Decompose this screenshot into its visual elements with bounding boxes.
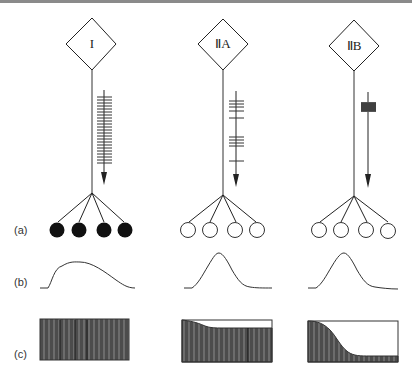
spike-train-IIA bbox=[229, 91, 244, 187]
muscle-fibers-IIB bbox=[312, 223, 396, 239]
motor-unit-figure bbox=[0, 0, 412, 378]
row-label-a: (a) bbox=[14, 224, 27, 236]
unit-I bbox=[40, 18, 135, 360]
unit-IIB bbox=[308, 20, 398, 362]
twitch-curve-I bbox=[40, 262, 135, 288]
spike-train-I bbox=[97, 90, 112, 185]
twitch-curve-IIA bbox=[184, 253, 272, 288]
unit-label-I: I bbox=[72, 36, 112, 52]
muscle-fibers-IIA bbox=[181, 223, 265, 238]
row-label-c: (c) bbox=[14, 348, 27, 360]
spike-train-IIB bbox=[361, 92, 376, 188]
axon-branches-IIB bbox=[320, 196, 388, 222]
axon-branches-IIA bbox=[189, 195, 256, 222]
muscle-fibers-I bbox=[50, 223, 133, 238]
fatigue-block-IIB bbox=[308, 321, 398, 362]
unit-label-IIA: ⅡA bbox=[203, 36, 243, 52]
fatigue-block-IIA bbox=[182, 320, 272, 362]
row-label-b: (b) bbox=[14, 276, 27, 288]
unit-IIA bbox=[181, 19, 273, 362]
twitch-curve-IIB bbox=[308, 253, 398, 289]
fatigue-block-I bbox=[40, 319, 129, 360]
unit-label-IIB: ⅡB bbox=[334, 38, 374, 54]
axon-branches-I bbox=[58, 193, 124, 222]
